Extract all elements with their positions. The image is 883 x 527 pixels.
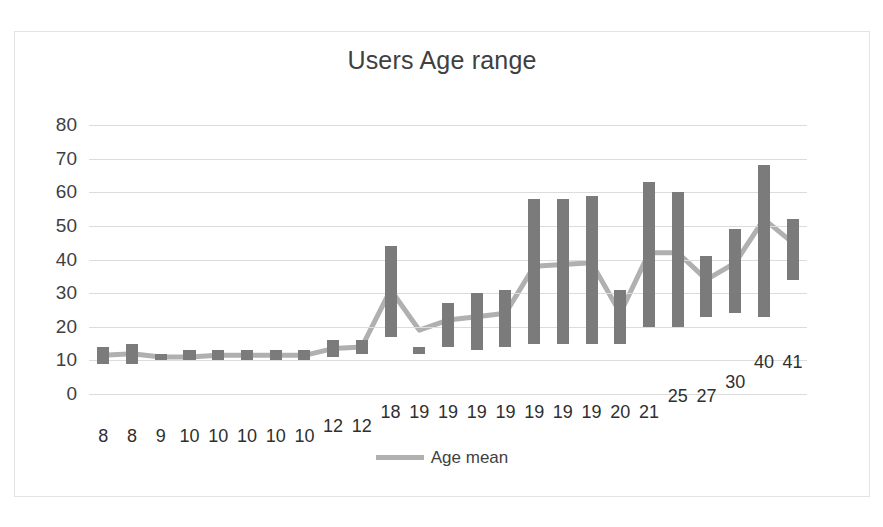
x-axis-label: 19	[438, 402, 458, 423]
gridline-30	[89, 293, 807, 294]
gridline-80	[89, 125, 807, 126]
x-axis-label: 19	[409, 402, 429, 423]
chart-title: Users Age range	[15, 46, 869, 75]
x-axis-label: 19	[495, 402, 515, 423]
x-axis-label: 10	[294, 426, 314, 447]
x-axis-label: 19	[582, 402, 602, 423]
range-bar	[327, 340, 339, 357]
range-bar	[298, 350, 310, 360]
x-axis-label: 12	[352, 416, 372, 437]
x-axis-label: 41	[783, 352, 803, 373]
range-bar	[528, 199, 540, 344]
chart-card: Users Age range 010203040506070808891010…	[14, 31, 870, 497]
chart-legend: Age mean	[15, 447, 869, 468]
range-bar	[729, 229, 741, 313]
y-axis-label-10: 10	[56, 349, 77, 371]
x-axis-label: 40	[754, 352, 774, 373]
range-bar	[356, 340, 368, 353]
y-axis-label-60: 60	[56, 181, 77, 203]
gridline-50	[89, 226, 807, 227]
gridline-40	[89, 260, 807, 261]
x-axis-label: 10	[208, 426, 228, 447]
range-bar	[183, 350, 195, 360]
range-bar	[126, 344, 138, 364]
x-axis-label: 10	[180, 426, 200, 447]
x-axis-label: 25	[668, 386, 688, 407]
y-axis-label-0: 0	[66, 383, 77, 405]
range-bar	[758, 165, 770, 316]
range-bar	[97, 347, 109, 364]
range-bar	[270, 350, 282, 360]
range-bar	[241, 350, 253, 360]
range-bar	[442, 303, 454, 347]
x-axis-label: 18	[381, 402, 401, 423]
y-axis-label-70: 70	[56, 148, 77, 170]
x-axis-label: 19	[467, 402, 487, 423]
range-bar	[643, 182, 655, 327]
range-bar	[557, 199, 569, 344]
range-bar	[212, 350, 224, 360]
range-bar	[499, 290, 511, 347]
x-axis-label: 20	[610, 402, 630, 423]
range-bar	[413, 347, 425, 354]
range-bar	[155, 354, 167, 361]
x-axis-label: 10	[266, 426, 286, 447]
y-axis-label-80: 80	[56, 114, 77, 136]
range-bar	[672, 192, 684, 327]
legend-line-swatch	[376, 455, 424, 460]
range-bar	[787, 219, 799, 280]
range-bar	[700, 256, 712, 317]
range-bar	[385, 246, 397, 337]
x-axis-label: 27	[696, 386, 716, 407]
x-axis-label: 9	[156, 426, 166, 447]
x-axis-label: 19	[524, 402, 544, 423]
x-axis-label: 30	[725, 372, 745, 393]
x-axis-label: 19	[553, 402, 573, 423]
range-bar	[471, 293, 483, 350]
y-axis-label-40: 40	[56, 249, 77, 271]
y-axis-label-20: 20	[56, 316, 77, 338]
range-bar	[614, 290, 626, 344]
x-axis-label: 8	[127, 426, 137, 447]
plot-area: 0102030405060708088910101010101212181919…	[89, 125, 807, 394]
x-axis-label: 21	[639, 402, 659, 423]
gridline-60	[89, 192, 807, 193]
legend-label-age-mean: Age mean	[431, 448, 509, 467]
x-axis-label: 12	[323, 416, 343, 437]
range-bar	[586, 196, 598, 344]
x-axis-label: 8	[98, 426, 108, 447]
gridline-10	[89, 360, 807, 361]
y-axis-label-30: 30	[56, 282, 77, 304]
gridline-70	[89, 159, 807, 160]
y-axis-label-50: 50	[56, 215, 77, 237]
x-axis-label: 10	[237, 426, 257, 447]
